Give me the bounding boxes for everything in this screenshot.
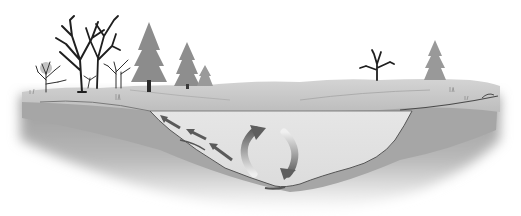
conifer-tree-icon: [424, 40, 446, 80]
lake-cross-section-diagram: [0, 0, 521, 216]
trees-left: [36, 16, 213, 92]
conifer-tree-icon: [174, 42, 200, 89]
conifer-tree-icon: [131, 22, 167, 92]
bare-tree-icon: [360, 50, 394, 80]
bare-tree-icon: [104, 60, 130, 88]
conifer-tree-icon: [197, 65, 213, 86]
trees-right: [360, 40, 446, 80]
bare-tree-icon: [86, 16, 120, 88]
diagram-svg: [0, 0, 521, 216]
bare-tree-icon: [36, 62, 66, 92]
bare-tree-icon: [84, 76, 96, 88]
